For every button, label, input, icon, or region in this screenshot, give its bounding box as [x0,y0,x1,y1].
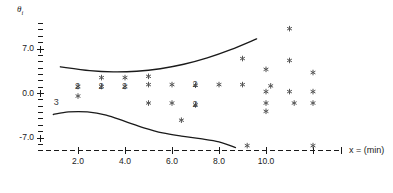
scatter-marker [311,101,315,106]
scatter-marker [146,82,150,87]
x-tick-label: 8.0 [199,156,239,166]
y-tick-label: 7.0 [0,43,34,53]
scatter-marker [76,94,80,99]
scatter-marker [99,75,103,80]
x-axis [38,147,341,154]
scatter-marker [269,83,273,88]
scatter-marker [292,101,296,106]
scatter-marker [264,109,268,114]
scatter-marker [123,75,127,80]
overlap-count-label: 2 [193,79,198,89]
overlap-count-label: 2 [99,81,104,91]
scatter-marker [146,101,150,106]
scatter-marker [264,89,268,94]
y-axis-label: θi [17,4,23,16]
x-tick-label: 2.0 [58,156,98,166]
scatter-marker [245,143,249,148]
x-axis-label: x = (min) [349,145,384,155]
scatter-marker [287,26,291,31]
scatter-marker [179,118,183,123]
scatter-marker [264,101,268,106]
x-tick-label: 6.0 [152,156,192,166]
x-tick-label: 4.0 [105,156,145,166]
scatter-marker [287,89,291,94]
y-axis-label-subscript: i [21,9,23,16]
y-tick-label: -7.0 [0,132,34,142]
x-tick-label: 10.0 [246,156,286,166]
scatter-marker [311,89,315,94]
scatter-marker [240,56,244,61]
scatter-marker [240,82,244,87]
overlap-count-label: 2 [122,81,127,91]
scatter-marker [287,58,291,63]
fitted-curves [53,39,256,148]
scatter-marker [217,82,221,87]
scatter-marker [311,70,315,75]
y-tick-label: 0.0 [0,88,34,98]
overlap-count-label: 3 [54,97,59,107]
scatter-marker [146,74,150,79]
scatter-marker [170,82,174,87]
fitted-curve [53,112,235,148]
y-axis [37,24,44,151]
overlap-count-label: 2 [193,99,198,109]
scatter-marker [264,67,268,72]
overlap-count-label: 2 [75,81,80,91]
scatter-plot-figure: θi x = (min) 2.04.06.08.010.0 7.00.0-7.0… [0,0,393,193]
scatter-marker [311,143,315,148]
scatter-marker [170,101,174,106]
fitted-curve [60,39,256,72]
